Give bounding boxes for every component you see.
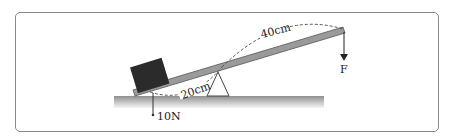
lever-diagram: 20cm 40cm 10N F bbox=[0, 0, 461, 137]
force-arrow bbox=[340, 32, 348, 61]
fulcrum bbox=[207, 72, 229, 96]
ground bbox=[114, 96, 324, 108]
force-label: F bbox=[340, 63, 348, 76]
weight-label: 10N bbox=[157, 110, 181, 123]
long-arm-label: 40cm bbox=[259, 20, 292, 41]
weight-box bbox=[130, 58, 169, 93]
lever-bar bbox=[133, 27, 345, 96]
